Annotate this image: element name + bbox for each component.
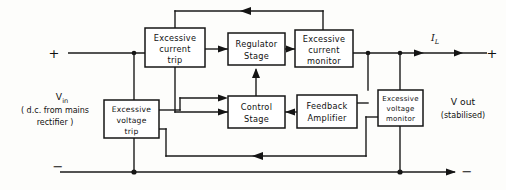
input-voltage-note-line-1: ( d.c. from mains [21,106,89,115]
input-voltage-label: Vin ( d.c. from mains rectifier ) [21,91,89,127]
block-regulator-stage-line-0: Regulator [236,39,278,49]
block-excessive-voltage-monitor-line-1: voltage [387,105,415,113]
input-plus-sign: + [49,46,60,61]
arrowhead-vtrip-to-control [218,95,228,102]
arrowhead-regulator-input [218,46,228,53]
output-voltage-label: V out (stabilised) [441,96,485,120]
arrowhead-cmonitor-input [286,46,295,53]
block-excessive-current-trip-line-2: trip [167,55,182,65]
block-feedback-amplifier-rect [297,95,357,128]
top-feedback-path [175,7,323,15]
arrowhead-negative-output [446,169,456,176]
block-regulator-stage-line-1: Stage [244,51,269,61]
arrowhead-top-feedback [240,7,251,15]
output-voltage-note: (stabilised) [441,111,485,120]
svg-text:Vin: Vin [56,91,68,105]
block-excessive-voltage-trip-line-2: trip [124,127,138,136]
arrowhead-control-right-input [285,109,295,116]
arrowhead-load-current [454,50,463,57]
input-minus-sign: − [53,159,64,174]
block-excessive-voltage-monitor[interactable]: Excessive voltage monitor [378,90,423,126]
voltage-trip-to-control-path [159,95,228,111]
block-excessive-current-trip-line-0: Excessive [154,33,196,43]
block-excessive-voltage-trip[interactable]: Excessive voltage trip [104,100,159,138]
block-excessive-current-monitor[interactable]: Excessive current monitor [295,30,353,67]
block-excessive-voltage-trip-line-1: voltage [116,116,146,125]
svg-text:IL: IL [430,32,439,46]
block-excessive-voltage-monitor-line-0: Excessive [382,95,419,103]
block-regulator-stage[interactable]: Regulator Stage [228,33,285,65]
output-minus-sign: − [462,164,473,179]
block-control-stage[interactable]: Control Stage [228,96,285,128]
block-control-stage-line-0: Control [241,102,272,112]
negative-rail-group [60,169,456,176]
block-excessive-voltage-trip-line-0: Excessive [112,105,152,114]
arrowhead-load-current-inner [414,50,424,57]
block-excessive-current-monitor-line-1: current [308,45,340,55]
diagram-canvas: Excessive current trip Regulator Stage E… [0,0,506,190]
block-diagram: Excessive current trip Regulator Stage E… [0,0,506,190]
block-excessive-current-monitor-line-0: Excessive [303,34,345,44]
input-voltage-subscript: in [62,97,68,105]
block-excessive-current-monitor-line-2: monitor [307,56,341,66]
block-feedback-amplifier-line-1: Amplifier [307,113,347,123]
block-excessive-current-trip[interactable]: Excessive current trip [145,28,205,67]
block-excessive-voltage-monitor-line-2: monitor [386,115,415,123]
block-control-stage-line-1: Stage [244,114,269,124]
output-voltage-name: V out [451,96,476,107]
arrowhead-control-left-input [218,109,228,116]
load-current-label: IL [430,32,439,46]
output-plus-sign: + [487,46,498,61]
block-feedback-amplifier[interactable]: Feedback Amplifier [297,95,357,128]
arrowhead-regulator-from-control [252,68,260,78]
load-current-subscript: L [434,38,439,46]
input-voltage-note-line-2: rectifier ) [37,118,74,127]
block-excessive-current-trip-line-1: current [159,44,191,54]
block-feedback-amplifier-line-0: Feedback [307,101,348,111]
arrowhead-vtrip-loop [252,152,263,160]
